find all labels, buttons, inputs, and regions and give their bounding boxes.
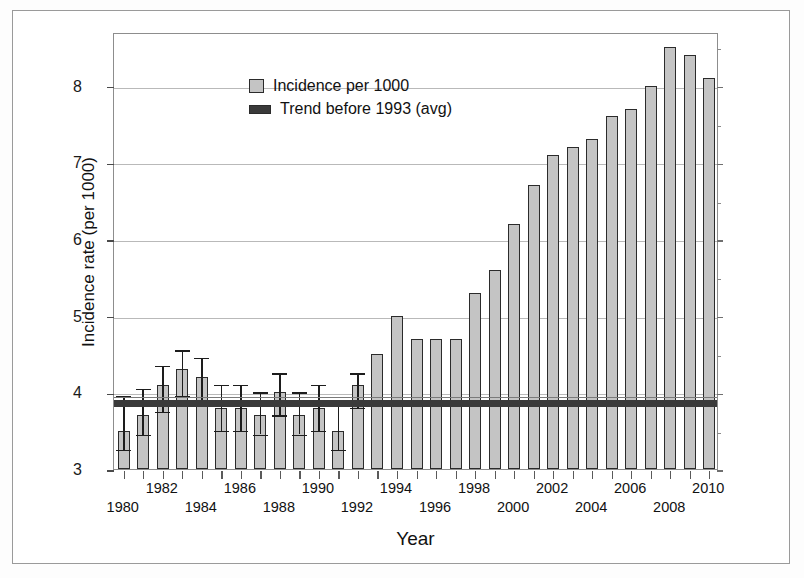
- error-bar-cap-lower: [292, 435, 307, 437]
- error-bar-cap-upper: [292, 392, 307, 394]
- y-tick-right: [717, 394, 723, 395]
- y-tick: [107, 317, 114, 318]
- x-tick-label: 1980: [107, 499, 139, 515]
- y-tick: [107, 240, 114, 241]
- y-tick: [107, 394, 114, 395]
- x-tick-label: 2004: [575, 499, 607, 515]
- x-tick-label: 1994: [380, 480, 412, 496]
- x-tick: [221, 471, 222, 479]
- legend-label-trend: Trend before 1993 (avg): [280, 100, 452, 118]
- error-bar-cap-upper: [155, 366, 170, 368]
- x-tick-label: 1992: [341, 499, 373, 515]
- y-tick-label: 4: [42, 384, 82, 402]
- trend-swatch-icon: [249, 105, 271, 114]
- error-bar-cap-lower: [214, 431, 229, 433]
- x-tick: [612, 471, 613, 479]
- bar: [391, 316, 403, 469]
- x-tick: [436, 471, 437, 479]
- y-tick-right: [717, 317, 723, 318]
- error-bar: [338, 400, 340, 450]
- y-tick-right: [717, 470, 723, 471]
- x-tick: [299, 471, 300, 479]
- x-tick: [690, 471, 691, 479]
- error-bar-cap-lower: [233, 431, 248, 433]
- x-axis-title: Year: [113, 528, 718, 550]
- y-tick-right: [717, 240, 723, 241]
- bar: [606, 116, 618, 469]
- x-tick-label: 2002: [536, 480, 568, 496]
- error-bar-cap-upper: [311, 385, 326, 387]
- error-bar-cap-upper: [272, 373, 287, 375]
- error-bar-cap-lower: [350, 408, 365, 410]
- bar: [625, 109, 637, 469]
- y-minor-tick-right: [717, 279, 721, 280]
- bar: [489, 270, 501, 469]
- legend-item-trend: Trend before 1993 (avg): [249, 100, 452, 118]
- x-tick: [338, 471, 339, 479]
- error-bar-cap-upper: [233, 385, 248, 387]
- x-tick: [631, 471, 632, 479]
- x-tick: [124, 471, 125, 479]
- bar: [547, 155, 559, 469]
- error-bar-cap-upper: [253, 392, 268, 394]
- error-bar-cap-upper: [175, 350, 190, 352]
- error-bar: [201, 358, 203, 400]
- bar: [703, 78, 715, 469]
- x-tick: [670, 471, 671, 479]
- figure-page: Incidence per 1000 Trend before 1993 (av…: [0, 0, 804, 578]
- x-tick: [143, 471, 144, 479]
- trend-before-1993-band: [114, 400, 717, 407]
- x-tick: [280, 471, 281, 479]
- x-tick-label: 1982: [146, 480, 178, 496]
- y-tick-label: 7: [42, 154, 82, 172]
- bar: [528, 185, 540, 469]
- y-tick: [107, 87, 114, 88]
- x-tick: [709, 471, 710, 479]
- x-tick: [182, 471, 183, 479]
- x-tick: [358, 471, 359, 479]
- legend-label-incidence: Incidence per 1000: [273, 77, 409, 95]
- y-tick: [107, 470, 114, 471]
- legend: Incidence per 1000 Trend before 1993 (av…: [245, 75, 456, 120]
- y-tick-label: 6: [42, 231, 82, 249]
- x-tick-label: 2008: [653, 499, 685, 515]
- error-bar-cap-lower: [311, 431, 326, 433]
- error-bar-cap-lower: [272, 415, 287, 417]
- y-minor-tick-right: [717, 203, 721, 204]
- x-tick-label: 1998: [458, 480, 490, 496]
- x-tick: [319, 471, 320, 479]
- error-bar: [260, 392, 262, 434]
- bar: [371, 354, 383, 469]
- y-minor-tick-right: [717, 49, 721, 50]
- x-tick: [417, 471, 418, 479]
- y-tick-right: [717, 87, 723, 88]
- bar: [469, 293, 481, 469]
- x-tick: [651, 471, 652, 479]
- x-tick: [377, 471, 378, 479]
- error-bar-cap-upper: [136, 389, 151, 391]
- x-tick: [241, 471, 242, 479]
- error-bar-cap-lower: [116, 450, 131, 452]
- x-tick-label: 1990: [302, 480, 334, 496]
- x-tick: [534, 471, 535, 479]
- x-tick-label: 2010: [692, 480, 724, 496]
- y-tick: [107, 164, 114, 165]
- x-tick: [475, 471, 476, 479]
- error-bar: [182, 350, 184, 396]
- x-tick: [202, 471, 203, 479]
- y-minor-tick-right: [717, 433, 721, 434]
- y-minor-tick-right: [717, 356, 721, 357]
- error-bar-cap-upper: [214, 385, 229, 387]
- x-tick-label: 1988: [263, 499, 295, 515]
- bar: [586, 139, 598, 469]
- error-bar-cap-upper: [350, 373, 365, 375]
- y-axis-title: Incidence rate (per 1000): [79, 157, 99, 347]
- bar-swatch-icon: [249, 79, 264, 93]
- bar: [567, 147, 579, 469]
- x-tick: [456, 471, 457, 479]
- x-tick: [592, 471, 593, 479]
- reference-line-thin: [114, 397, 717, 398]
- error-bar: [279, 373, 281, 415]
- bar: [508, 224, 520, 469]
- x-tick-label: 1996: [419, 499, 451, 515]
